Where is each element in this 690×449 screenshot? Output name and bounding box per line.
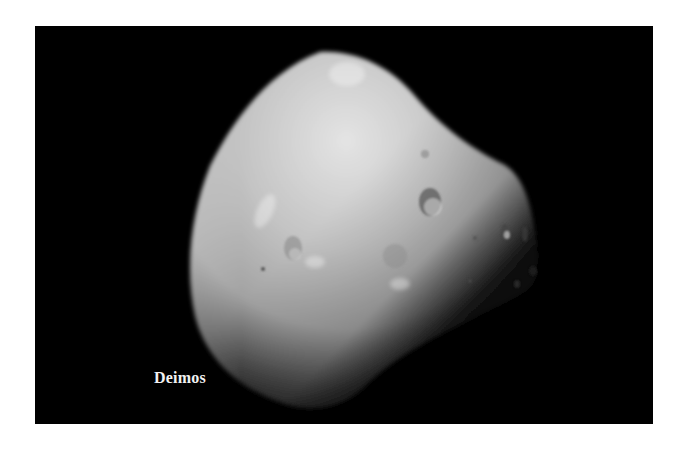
deimos-moon-image: [35, 26, 653, 424]
moon-caption: Deimos: [154, 369, 206, 387]
photo-frame: Deimos: [35, 26, 653, 424]
